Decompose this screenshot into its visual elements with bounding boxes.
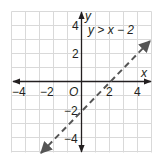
y-tick-label: 4 bbox=[72, 19, 79, 33]
y-axis-label: y bbox=[84, 9, 92, 23]
x-tick-label: 2 bbox=[106, 85, 113, 99]
coordinate-graph: y y > x − 2 x O −4 −2 2 4 4 2 −2 −4 bbox=[0, 0, 156, 164]
y-tick-label: −2 bbox=[64, 104, 78, 118]
x-tick-label: 4 bbox=[134, 85, 141, 99]
x-axis-label: x bbox=[140, 66, 148, 80]
inequality-label: y > x − 2 bbox=[87, 23, 134, 37]
y-tick-label: 2 bbox=[72, 47, 79, 61]
origin-label: O bbox=[69, 85, 78, 99]
x-tick-label: −2 bbox=[40, 85, 54, 99]
x-tick-label: −4 bbox=[12, 85, 26, 99]
y-tick-label: −4 bbox=[64, 132, 78, 146]
